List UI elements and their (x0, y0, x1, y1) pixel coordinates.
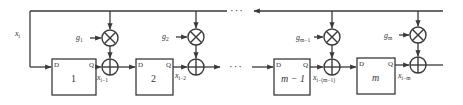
input-label: xi (14, 29, 21, 39)
multiply-icon (102, 30, 118, 46)
pin-q-1: Q (89, 61, 94, 69)
add-icon (410, 57, 426, 73)
feedback-ellipsis: ··· (230, 4, 244, 16)
pin-q-m: Q (388, 60, 393, 68)
stage-1: D Q 1 g1 xi−1 (52, 11, 135, 95)
gain-label-m-minus-1: gm−1 (296, 33, 310, 43)
pin-q-m-minus-1: Q (303, 61, 308, 69)
add-icon (324, 59, 340, 75)
stage-2: D Q 2 g2 xi−2 (136, 11, 220, 95)
block-label-m: m (372, 72, 379, 83)
pin-d-m-minus-1: D (276, 61, 281, 69)
multiply-icon (324, 29, 340, 45)
block-label-2: 2 (151, 73, 156, 84)
lfsr-block-diagram: ··· xi D Q 1 g1 xi−1 D Q (0, 0, 463, 105)
multiply-icon (410, 27, 426, 43)
stage-m: D Q m gm xi−m (357, 11, 443, 94)
chain-ellipsis: ··· (229, 60, 243, 72)
pin-q-2: Q (166, 61, 171, 69)
gain-label-m: gm (384, 31, 393, 41)
pin-d-2: D (138, 61, 143, 69)
add-icon (102, 59, 118, 75)
pin-d-m: D (359, 60, 364, 68)
multiply-icon (188, 29, 204, 45)
block-label-m-minus-1: m − 1 (281, 73, 305, 84)
gain-label-1: g1 (76, 33, 83, 43)
gain-label-2: g2 (162, 32, 169, 42)
add-icon (188, 59, 204, 75)
stage-m-minus-1: D Q m − 1 gm−1 xi−(m−1) (274, 11, 356, 95)
block-label-1: 1 (71, 73, 76, 84)
output-label-m: xi−m (397, 71, 411, 81)
output-label-2: xi−2 (174, 71, 186, 81)
pin-d-1: D (54, 61, 59, 69)
